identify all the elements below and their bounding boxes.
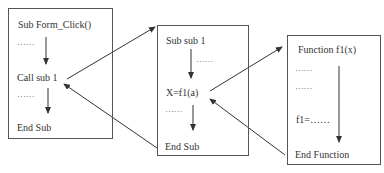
box2-call: X=f1(a) [166,87,198,99]
box3-assign: f1=…… [296,114,330,126]
box2-footer: End Sub [165,141,199,153]
box1-footer: End Sub [17,122,51,134]
box1-dots1: …… [17,37,34,47]
box3-dots2: …… [295,81,312,91]
box1-dots2: …… [17,89,34,99]
box2-dots1: …… [196,54,213,64]
box3-header: Function f1(x) [298,44,356,56]
box3-dots1: …… [295,63,312,73]
box2-dots2: …… [165,104,182,114]
box2-header: Sub sub 1 [166,35,205,47]
box1-header: Sub Form_Click() [18,19,91,31]
box1-call: Call sub 1 [17,72,58,84]
box3-footer: End Function [295,149,349,161]
